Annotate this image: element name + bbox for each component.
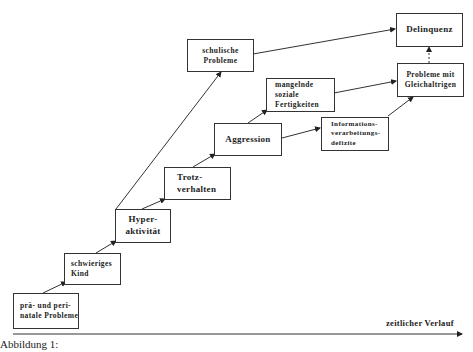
edge-trotz-aggression [193, 154, 215, 167]
node-label: mangelnde [275, 80, 334, 90]
node-hyperaktivitaet: Hyper- aktivität [115, 209, 171, 243]
node-gleichaltrige: Probleme mit Gleichaltrigen [397, 63, 464, 97]
edge-sozial-gleich [334, 81, 396, 93]
edge-perinatal-kind [43, 282, 66, 293]
node-label: schwieriges [71, 259, 120, 269]
node-schulische-probleme: schulische Probleme [187, 39, 254, 72]
node-label: Trotz- [177, 172, 230, 184]
node-label: Hyper- [129, 214, 158, 226]
node-label: prä- und peri- [20, 301, 78, 311]
node-label: Aggression [225, 134, 270, 146]
node-informationsverarbeitung: Informations- verarbeitungs- defizite [321, 117, 389, 151]
node-label: Gleichaltrigen [405, 80, 456, 90]
node-label: natale Probleme [20, 311, 78, 321]
node-label: verhalten [177, 184, 230, 196]
edge-schulisch-delinquenz [253, 29, 395, 54]
edge-aggression-info [282, 128, 320, 138]
node-label: soziale [275, 90, 334, 100]
edge-info-gleich [388, 97, 413, 116]
node-label: Probleme [204, 56, 238, 66]
edge-hyper-trotz [142, 199, 165, 209]
node-label: verarbeitungs- [331, 129, 388, 138]
node-label: defizite [331, 139, 388, 148]
node-label: Fertigkeiten [275, 100, 334, 110]
edge-kind-hyper [96, 241, 116, 253]
node-soziale-fertigkeiten: mangelnde soziale Fertigkeiten [266, 78, 335, 112]
node-label: Informations- [331, 120, 388, 129]
edge-aggression-sozial [248, 110, 267, 123]
timeline-label: zeitlicher Verlauf [386, 318, 454, 328]
node-label: aktivität [125, 226, 160, 238]
node-schwieriges-kind: schwieriges Kind [64, 253, 121, 285]
figure-caption: Abbildung 1: [0, 338, 58, 350]
node-label: Delinquenz [406, 24, 453, 36]
node-aggression: Aggression [214, 123, 282, 156]
node-perinatal: prä- und peri- natale Probleme [13, 293, 79, 329]
node-label: Kind [71, 269, 120, 279]
node-trotzverhalten: Trotz- verhalten [164, 167, 231, 200]
node-label: Probleme mit [406, 70, 454, 80]
node-delinquenz: Delinquenz [396, 13, 463, 47]
node-label: schulische [202, 46, 239, 56]
